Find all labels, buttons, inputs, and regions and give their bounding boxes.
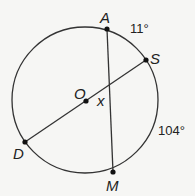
point-d [22,139,27,144]
point-a [104,26,109,31]
label-d: D [13,145,24,162]
point-m [110,169,115,174]
label-angle-x: x [96,92,105,109]
label-m: M [106,177,119,194]
arc-label-as: 11° [130,21,149,36]
point-s [143,57,148,62]
label-s: S [150,50,160,67]
label-a: A [99,9,110,26]
chord-am [107,29,113,172]
diagram-canvas: A S D M O x 11° 104° [0,0,195,196]
label-o: O [74,85,86,102]
arc-label-sm: 104° [158,123,185,138]
